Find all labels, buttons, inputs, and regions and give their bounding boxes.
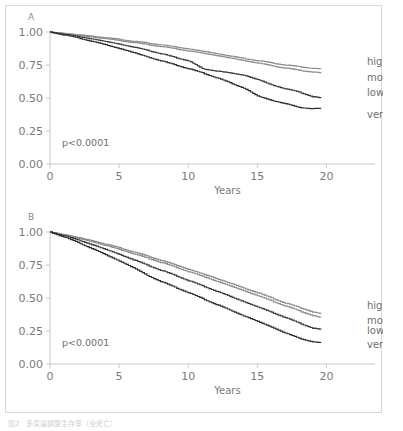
x-tick-label: 0 — [47, 370, 54, 383]
x-tick-label: 10 — [181, 370, 195, 383]
x-tick-label: 10 — [181, 170, 195, 183]
y-tick-label: 0.25 — [19, 125, 44, 138]
y-tick-label: 0.00 — [19, 158, 44, 171]
x-axis-title: Years — [213, 385, 240, 396]
legend-label-low: low — [367, 325, 383, 336]
legend-label-moderate: moderate — [367, 72, 383, 83]
y-tick-label: 1.00 — [19, 226, 44, 239]
legend-label-high: high — [367, 56, 383, 67]
y-tick-label: 0.75 — [19, 59, 44, 72]
legend-label-very-low: very low — [367, 339, 383, 350]
y-tick-label: 0.25 — [19, 325, 44, 338]
y-tick-label: 1.00 — [19, 26, 44, 39]
x-tick-label: 0 — [47, 170, 54, 183]
panel-a: A 0.000.250.500.751.0005101520Yearsp<0.0… — [6, 6, 383, 210]
panel-b: B 0.000.250.500.751.0005101520Yearsp<0.0… — [6, 208, 383, 412]
survival-curve-very-low — [50, 32, 321, 109]
x-tick-label: 20 — [319, 170, 333, 183]
p-value-annotation: p<0.0001 — [62, 337, 109, 348]
survival-curve-very-low — [50, 232, 321, 343]
y-tick-label: 0.50 — [19, 92, 44, 105]
panel-a-plot: 0.000.250.500.751.0005101520Yearsp<0.000… — [6, 6, 383, 210]
x-tick-label: 15 — [250, 370, 264, 383]
figure-caption: 図2 多変量調整生存率（全死亡） — [8, 418, 398, 428]
x-tick-label: 5 — [116, 170, 123, 183]
y-tick-label: 0.00 — [19, 358, 44, 371]
x-tick-label: 20 — [319, 370, 333, 383]
figure-frame: A 0.000.250.500.751.0005101520Yearsp<0.0… — [5, 5, 382, 413]
survival-curve-moderate — [50, 232, 321, 318]
x-tick-label: 15 — [250, 170, 264, 183]
survival-curve-low — [50, 232, 321, 329]
y-tick-label: 0.75 — [19, 259, 44, 272]
y-tick-label: 0.50 — [19, 292, 44, 305]
p-value-annotation: p<0.0001 — [62, 137, 109, 148]
legend-label-high: high — [367, 300, 383, 311]
legend-label-very-low: very low — [367, 109, 383, 120]
x-tick-label: 5 — [116, 370, 123, 383]
panel-b-plot: 0.000.250.500.751.0005101520Yearsp<0.000… — [6, 208, 383, 412]
x-axis-title: Years — [213, 185, 240, 196]
legend-label-low: low — [367, 87, 383, 98]
